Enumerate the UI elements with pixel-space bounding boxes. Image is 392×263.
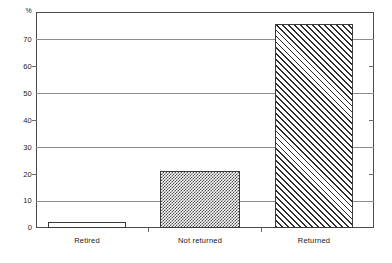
x-axis-label-returned: Returned: [275, 236, 353, 245]
y-axis-tick-20: 20: [0, 171, 32, 179]
bar-chart: % 70 60 50 40 30 20 10 0 Retired Not ret…: [0, 0, 392, 263]
bar-retired[interactable]: [48, 222, 126, 228]
y-axis-tick-10: 10: [0, 197, 32, 205]
y-axis-tick-0: 0: [0, 224, 32, 232]
x-axis-tick-1: [148, 228, 149, 232]
y-axis-tick-70: 70: [0, 36, 32, 44]
y-axis-tick-40: 40: [0, 117, 32, 125]
y-axis-tick-60: 60: [0, 63, 32, 71]
y-axis-tick-50: 50: [0, 90, 32, 98]
bar-not-returned[interactable]: [160, 171, 240, 228]
x-axis-label-retired: Retired: [48, 236, 126, 245]
x-axis-label-not-returned: Not returned: [160, 236, 240, 245]
bars-layer: [36, 12, 374, 228]
x-axis-tick-2: [261, 228, 262, 232]
bar-returned[interactable]: [275, 24, 353, 228]
y-axis-label-percent: %: [0, 7, 32, 15]
y-axis-tick-30: 30: [0, 144, 32, 152]
